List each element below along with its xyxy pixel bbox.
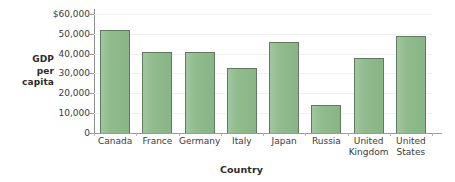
bar [227, 68, 257, 133]
y-axis-tick-label: 40,000 [40, 49, 90, 59]
bar [100, 30, 130, 133]
y-axis-tick-label: 50,000 [40, 29, 90, 39]
x-axis-category-label: UnitedKingdom [349, 136, 389, 158]
y-axis-tick-label: 10,000 [40, 108, 90, 118]
x-axis-category-label: Italy [232, 136, 252, 147]
x-axis-category-label: UnitedStates [396, 136, 426, 158]
bar [142, 52, 172, 133]
x-axis-category-label: Russia [312, 136, 341, 147]
x-axis-category-label-line: Germany [179, 136, 220, 147]
bar [311, 105, 341, 133]
gdp-per-capita-bar-chart: GDP per capita 010,00020,00030,00040,000… [0, 0, 455, 182]
x-axis-category-label: Germany [179, 136, 220, 147]
x-axis-title: Country [0, 164, 455, 175]
bar-shading [186, 53, 214, 133]
bar [396, 36, 426, 133]
bar [354, 58, 384, 133]
plot-area [94, 10, 432, 133]
x-axis-category-label-line: States [396, 147, 426, 158]
bar-series [94, 10, 432, 133]
x-axis-category-label: Canada [98, 136, 132, 147]
x-axis-category-label-line: Kingdom [349, 147, 389, 158]
bar-shading [270, 43, 298, 133]
bar [269, 42, 299, 133]
x-axis-title-text: Country [220, 164, 263, 175]
y-axis-tick-label: 20,000 [40, 88, 90, 98]
y-axis-tick-label: 0 [40, 128, 90, 138]
x-axis-category-label-line: Japan [272, 136, 297, 147]
bar-shading [397, 37, 425, 133]
x-axis-category-label-line: United [349, 136, 389, 147]
bar-shading [355, 59, 383, 133]
bar-shading [101, 31, 129, 133]
x-axis-category-label: Japan [272, 136, 297, 147]
x-axis-category-labels: CanadaFranceGermanyItalyJapanRussiaUnite… [94, 136, 442, 162]
x-axis-category-label-line: Canada [98, 136, 132, 147]
bar-shading [312, 106, 340, 133]
y-axis-tick-label: $60,000 [40, 9, 90, 19]
y-axis-tick-labels: 010,00020,00030,00040,00050,000$60,000 [40, 0, 90, 182]
x-axis-category-label-line: United [396, 136, 426, 147]
x-axis-category-label-line: Russia [312, 136, 341, 147]
bar-shading [228, 69, 256, 133]
y-axis-tick-label: 30,000 [40, 68, 90, 78]
x-axis-category-label-line: France [142, 136, 172, 147]
x-axis-category-label-line: Italy [232, 136, 252, 147]
bar-shading [143, 53, 171, 133]
bar [185, 52, 215, 133]
x-axis-category-label: France [142, 136, 172, 147]
